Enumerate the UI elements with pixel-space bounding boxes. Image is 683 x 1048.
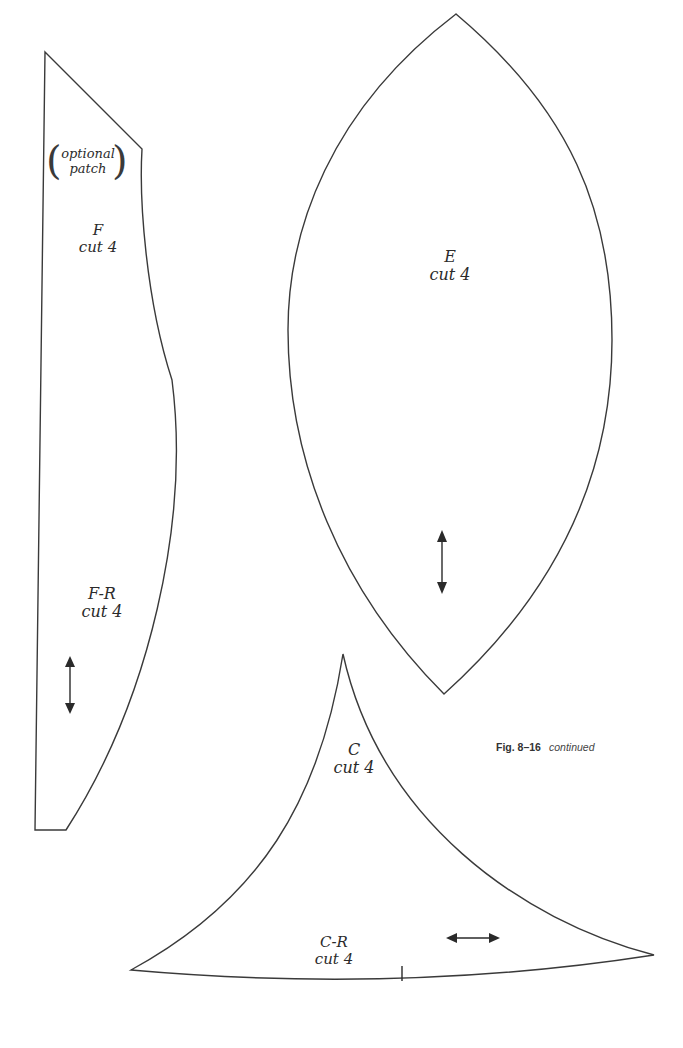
- piece-fr-label: F-R cut 4: [70, 585, 134, 622]
- piece-f-note-line2: patch: [56, 162, 120, 177]
- figure-number: Fig. 8–16: [496, 741, 541, 753]
- piece-e-outline: [288, 14, 612, 694]
- piece-fr-name: F-R: [70, 585, 134, 603]
- piece-f-note: optional patch: [56, 147, 120, 177]
- piece-e-instruction: cut 4: [418, 266, 482, 284]
- piece-fr-grainline-icon: [65, 656, 75, 714]
- piece-f-note-line1: optional: [56, 147, 120, 162]
- pattern-page: ( ) optional patch F cut 4 F-R cut 4 E c…: [0, 0, 683, 1048]
- piece-cr-name: C-R: [302, 934, 366, 951]
- figure-caption: Fig. 8–16continued: [496, 741, 595, 753]
- piece-f-label: F cut 4: [66, 222, 130, 257]
- piece-cr-instruction: cut 4: [302, 951, 366, 968]
- piece-c-instruction: cut 4: [322, 759, 386, 777]
- piece-fr-instruction: cut 4: [70, 603, 134, 621]
- piece-f-name: F: [66, 222, 130, 239]
- piece-f-instruction: cut 4: [66, 239, 130, 256]
- piece-e-grainline-icon: [437, 530, 447, 594]
- piece-e-label: E cut 4: [418, 248, 482, 285]
- piece-c-label: C cut 4: [322, 741, 386, 778]
- piece-cr-label: C-R cut 4: [302, 934, 366, 969]
- piece-c-name: C: [322, 741, 386, 759]
- piece-c-outline: [131, 654, 654, 979]
- piece-cr-grainline-icon: [446, 933, 500, 943]
- figure-note: continued: [549, 741, 595, 753]
- piece-e-name: E: [418, 248, 482, 266]
